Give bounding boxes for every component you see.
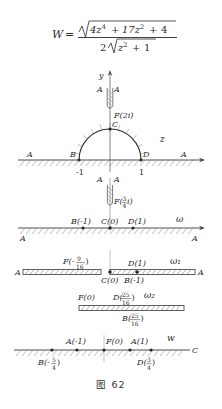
svg-text:B(-: B(- [37,358,50,367]
panel-omega-plane: A A F( 3 4 i) [18,175,205,243]
frac-tail: ) [152,358,155,367]
w-point-A-left-dot [75,348,78,351]
omega-axis-hatching [20,228,193,234]
w-point-A-right-label: A(1) [130,337,148,346]
z-slit-tip-F-label: F(2i) [113,111,133,120]
omega1-right-ribbon [110,270,195,275]
num-plus-2: + [149,24,157,35]
frac-denominator: 4 [147,364,151,371]
svg-text:F(-: F(- [62,257,75,266]
y-axis-label: y [98,71,104,80]
frac-numerator: 3 [123,195,127,202]
z-point-D-label: D [142,150,150,159]
frac-tail: i) [127,197,133,206]
omega1-point-D-label: D(1) [127,259,146,268]
frac-tail: ) [57,358,60,367]
formula-lhs: W [52,28,65,41]
w-point-B-dot [50,348,53,351]
num-term-2: 17z2 [122,23,144,35]
frac-numerator: 5 [52,356,56,363]
w-plane-label: w [167,333,175,343]
den-term: z2 [117,41,127,53]
w-point-B-label: B(- 5 4 ) [37,356,60,371]
omega1-point-C-label: C(0) [101,276,118,285]
omega1-point-B-label: B(-1) [123,276,144,285]
frac-denominator: 16 [76,263,84,270]
z-slit-right-A: A [113,85,120,94]
omega2-point-B-label: B( 25 16 ) [121,312,144,327]
frac-numerator: 9 [77,255,81,262]
panel-omega-1-plane: F(- 9 16 ) [14,250,204,285]
panel-omega-2-plane: F(0) D( 25 16 ) ω₂ [77,290,184,327]
panel-z-plane: y A A F(2i) C B [18,70,205,177]
omega2-point-D-label: D( 25 16 ) [112,291,135,306]
formula-numerator: 4z4 + 17z2 + 4 [79,21,176,37]
z-tick-one: 1 [139,168,144,177]
w-point-A-left-label: A(-1) [65,337,86,346]
omega1-far-right-A: A [197,268,204,277]
w-point-F-label: F(0) [105,337,123,346]
den-coefficient: 2 [100,42,106,53]
figure-caption: 图 62 [0,377,222,391]
omega-point-D-dot [132,227,135,230]
w-axis-hatching [16,350,183,356]
figure-62-conformal-mapping-diagram: W = 4z4 + 17z2 + 4 2 z2 + 1 y [0,0,222,409]
omega-point-B-dot [82,227,85,230]
omega1-point-D-dot [135,270,138,273]
omega1-left-ribbon [23,270,101,275]
num-plus-1: + [111,24,119,35]
z-axis-far-left-A: A [26,150,33,159]
den-plus: + [132,42,140,53]
frac-denominator: 4 [123,202,127,209]
z-point-B-label: B [69,150,76,159]
frac-numerator: 25 [122,291,130,298]
omega-slit-left-A: A [96,175,103,184]
omega1-point-F-label: F(- 9 16 ) [62,255,89,270]
omega-point-F-label: F( 3 4 i) [113,195,133,209]
w-point-D-label: D( 3 4 ) [136,356,155,371]
omega2-plane-label: ω₂ [144,290,155,300]
formula-block: W = 4z4 + 17z2 + 4 2 z2 + 1 [52,21,177,53]
z-slit-left-A: A [96,85,103,94]
omega-axis-far-left-A: A [19,234,26,243]
z-axis-hatching [20,160,193,166]
omega-plane-label: ω [176,214,184,224]
frac-denominator: 4 [52,364,56,371]
den-const: 1 [144,42,150,53]
z-plane-label: z [159,134,165,144]
omega-slit-right-A: A [113,175,120,184]
w-end-label: C [192,346,198,355]
svg-text:D(: D( [136,358,147,367]
w-point-A-right-dot [128,348,131,351]
frac-numerator: 3 [147,356,151,363]
frac-tail: ) [141,314,144,323]
omega1-far-left-A: A [14,268,21,277]
num-const: 4 [161,24,167,35]
omega1-plane-label: ω₁ [170,256,181,266]
omega1-point-C-dot [108,270,111,273]
frac-tail: ) [132,293,135,302]
w-point-F-dot [102,348,105,351]
omega2-ribbon [79,306,184,311]
frac-numerator: 25 [131,312,139,319]
omega-point-C-label: C(0) [101,217,118,226]
frac-denominator: 16 [131,320,139,327]
z-axis-far-right-A: A [180,150,187,159]
formula-equals: = [65,28,74,41]
z-point-C-label: C [112,120,118,129]
formula-denominator: 2 z2 + 1 [100,39,156,53]
panel-w-plane: A(-1) F(0) A(1) w C B(- [14,333,198,371]
omega2-point-F-label: F(0) [77,293,95,302]
omega-point-D-label: D(1) [127,217,146,226]
w-point-D-dot [149,348,152,351]
z-tick-minus-one: -1 [76,168,84,177]
omega-point-C-dot [108,226,111,229]
num-term-1: 4z4 [89,23,106,35]
frac-tail: ) [86,257,89,266]
frac-denominator: 16 [122,299,130,306]
omega-axis-far-right-A: A [191,234,198,243]
omega-point-B-label: B(-1) [70,217,91,226]
